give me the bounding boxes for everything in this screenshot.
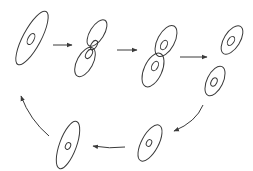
stage-4-cells	[201, 22, 247, 99]
separated-nucleus-upper	[226, 35, 236, 47]
cell-nucleus	[64, 142, 71, 150]
stage-3-cells	[137, 22, 181, 90]
cell-nucleus-lower	[84, 48, 94, 59]
daughter-nucleus-lower	[150, 60, 160, 72]
separated-nucleus-lower	[210, 77, 219, 88]
cell-nucleus	[145, 139, 153, 148]
stage-6-cell	[51, 119, 84, 171]
stage-2-cell	[70, 17, 110, 80]
stage-1-cell	[10, 7, 54, 68]
cell-membrane	[51, 119, 84, 171]
arrow-stage4-to-stage5	[174, 105, 203, 131]
arrow-stage6-to-stage1	[21, 96, 49, 136]
cell-membrane	[10, 7, 54, 68]
arrow-stage5-to-stage6	[93, 146, 125, 148]
separated-cell-lower	[201, 63, 229, 99]
daughter-nucleus-upper	[159, 39, 169, 51]
stage-5-cell	[133, 121, 167, 164]
cell-cycle-diagram	[0, 0, 253, 171]
cell-membrane	[133, 121, 167, 164]
cell-lobe-lower	[70, 44, 99, 80]
cell-nucleus	[26, 32, 37, 45]
separated-cell-upper	[217, 22, 248, 58]
